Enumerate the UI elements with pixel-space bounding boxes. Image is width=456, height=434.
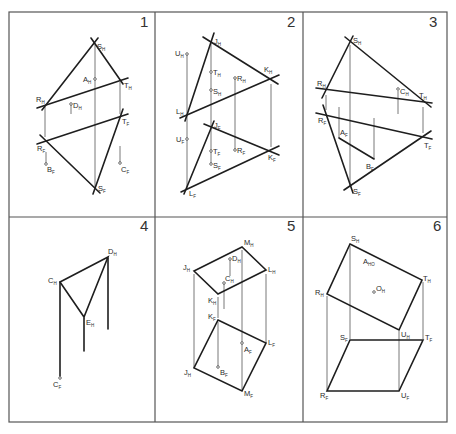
label-d-h: DH [108, 247, 117, 257]
line-ab-front [339, 138, 374, 159]
point-u-h [186, 53, 189, 56]
drawing-sheet: 1 SH AH TH RH DH TF RF BF CF SF 2 [0, 0, 456, 434]
label-s-h: SH [97, 42, 105, 52]
label-u-h: UH [175, 49, 184, 59]
label-r-h: RH [36, 95, 45, 105]
label-j-h: JH [183, 263, 190, 273]
label-m-f: MF [244, 389, 253, 399]
label-t-h: TH [213, 68, 221, 78]
point-s-f [210, 163, 213, 166]
label-j-f: JH [184, 368, 191, 378]
point-c-f [59, 377, 62, 380]
label-k-f: KF [268, 153, 276, 163]
panel-number: 4 [140, 217, 148, 234]
line-rt-front [37, 114, 128, 144]
label-e-h: EH [86, 318, 94, 328]
label-t-f: TF [213, 147, 221, 157]
panel-4: 4 CH DH EH CF [48, 217, 148, 390]
point-t-h [210, 71, 213, 74]
plane-rstu-top [327, 244, 422, 330]
label-t-f: TF [424, 141, 432, 151]
label-t-f: TF [122, 117, 130, 127]
label-s-f: SF [353, 187, 361, 197]
label-t-h: TH [423, 274, 431, 284]
label-l-f: LF [189, 189, 196, 199]
label-a-f: AF [340, 128, 348, 138]
plane-jklm-front [194, 320, 266, 391]
line-lk-front [181, 146, 279, 192]
panel-number: 1 [140, 13, 148, 30]
line-rs-front [40, 135, 100, 193]
panel-1: 1 SH AH TH RH DH TF RF BF CF SF [36, 13, 148, 194]
point-d-h [70, 103, 73, 106]
label-b-f: BF [366, 162, 374, 172]
point-r-h [234, 77, 237, 80]
label-k-h: KH [208, 296, 216, 306]
line-st-top [91, 38, 123, 84]
panel-number: 5 [287, 217, 295, 234]
label-l-h: LH [268, 265, 275, 275]
label-a-h: AH [83, 75, 91, 85]
label-t-h: TH [124, 81, 132, 91]
label-r-f: RF [318, 116, 326, 126]
label-c-h: CH [48, 276, 57, 286]
label-s-h: SH [213, 87, 221, 97]
label-s-h: SH [353, 36, 361, 46]
plane-rstu-front [327, 340, 423, 391]
triangle-cde-top [60, 257, 108, 317]
panel-5: 5 MH DH JH LH CH KH KF AF LF JH BF MF [183, 217, 295, 399]
line-lk-top [180, 75, 279, 118]
line-rs-top [42, 38, 98, 110]
label-r-f: RF [37, 144, 45, 154]
point-t-f [210, 150, 213, 153]
panel-number: 6 [433, 217, 441, 234]
label-j-f: JF [214, 121, 221, 131]
label-c-f: CF [53, 380, 61, 390]
label-t-f: TF [425, 333, 433, 343]
line-ts-front [93, 109, 123, 194]
label-r-f: RF [237, 146, 245, 156]
point-u-f [186, 138, 189, 141]
label-s-f: SF [340, 333, 348, 343]
point-c-f [119, 162, 122, 165]
line-rt-top [316, 88, 432, 103]
panel-3: 3 SH RH CH TH RF AF BF TF SF [316, 13, 437, 197]
label-d-h: DH [73, 101, 82, 111]
panel-grid [9, 12, 447, 422]
point-o-h [373, 291, 376, 294]
point-s-h [210, 89, 213, 92]
label-o-h: OH [376, 284, 385, 294]
label-t-h: TH [419, 91, 427, 101]
label-r-h: RH [317, 79, 326, 89]
label-u-f: UF [401, 391, 409, 401]
label-r-h: RH [315, 288, 324, 298]
point-d-h [229, 258, 232, 261]
panel-2: 2 JH UH TH RH SH KH LH JF UF TF RF SF [175, 13, 295, 199]
label-b-f: BF [47, 165, 55, 175]
label-k-h: KH [264, 65, 272, 75]
label-a-h: AHO [363, 257, 375, 267]
point-a-f [241, 342, 244, 345]
label-k-f: KF [208, 312, 216, 322]
label-s-f: SF [213, 161, 221, 171]
label-c-h: CH [225, 274, 234, 284]
label-r-f: RF [320, 391, 328, 401]
line-st-front [344, 131, 431, 190]
label-l-f: LF [268, 338, 275, 348]
label-l-h: LH [176, 107, 183, 117]
label-m-h: MH [244, 238, 254, 248]
point-r-f [234, 149, 237, 152]
panel-6: 6 SH AHO OH TH RH UH SF TF RF UF [315, 217, 441, 401]
sheet-caption [0, 424, 456, 434]
label-r-h: RH [237, 74, 246, 84]
label-s-h: SH [351, 234, 359, 244]
label-a-f: AF [244, 345, 252, 355]
label-d-h: DH [232, 254, 241, 264]
point-c-h [397, 88, 400, 91]
label-b-f: BF [220, 368, 228, 378]
label-j-h: JH [214, 37, 221, 47]
line-jl-top [185, 33, 214, 121]
label-u-f: UF [176, 135, 184, 145]
label-u-h: UH [401, 330, 410, 340]
label-s-f: SF [98, 184, 106, 194]
